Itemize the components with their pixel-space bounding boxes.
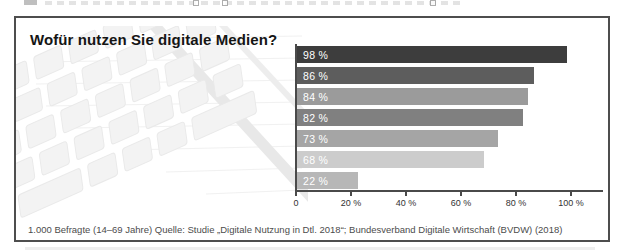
bar-value-label: 86 % bbox=[297, 70, 328, 82]
cropped-page-text-strip bbox=[0, 0, 620, 8]
bar-group: 98 %86 %84 %82 %73 %68 %22 % bbox=[297, 46, 567, 193]
source-caption: 1.000 Befragte (14–69 Jahre) Quelle: Stu… bbox=[28, 224, 600, 235]
cropped-checkbox-remnant bbox=[222, 0, 228, 6]
bar-82pct: 82 % bbox=[297, 109, 523, 126]
bar-value-label: 68 % bbox=[297, 154, 328, 166]
cropped-text-remnant bbox=[24, 0, 37, 5]
x-tick-mark bbox=[405, 192, 407, 196]
bar-value-label: 84 % bbox=[297, 91, 328, 103]
x-tick-mark bbox=[515, 192, 517, 196]
bar-chart: 98 %86 %84 %82 %73 %68 %22 % 020 %40 %60… bbox=[295, 44, 610, 230]
x-tick-label: 40 % bbox=[396, 198, 417, 208]
bar-22pct: 22 % bbox=[297, 172, 358, 189]
x-tick-label: 20 % bbox=[341, 198, 362, 208]
keyboard-photo-decoration bbox=[16, 26, 308, 224]
infographic-frame: Wofür nutzen Sie digitale Medien? 98 %86… bbox=[14, 16, 610, 242]
bar-68pct: 68 % bbox=[297, 151, 484, 168]
bar-value-label: 82 % bbox=[297, 112, 328, 124]
x-tick-mark bbox=[460, 192, 462, 196]
x-tick-mark bbox=[570, 192, 572, 196]
chart-title: Wofür nutzen Sie digitale Medien? bbox=[30, 31, 277, 48]
x-tick-mark bbox=[350, 192, 352, 196]
x-tick-mark bbox=[295, 192, 297, 196]
bar-value-label: 73 % bbox=[297, 133, 328, 145]
page: Wofür nutzen Sie digitale Medien? 98 %86… bbox=[0, 0, 620, 250]
cropped-checkbox-remnant bbox=[430, 0, 436, 6]
cropped-checkbox-remnant bbox=[193, 0, 199, 6]
bar-value-label: 98 % bbox=[297, 49, 328, 61]
x-axis-line bbox=[295, 190, 603, 192]
x-tick-label: 100 % bbox=[558, 198, 584, 208]
bar-98pct: 98 % bbox=[297, 46, 567, 63]
x-tick-label: 60 % bbox=[451, 198, 472, 208]
cropped-text-remnant bbox=[45, 1, 465, 5]
x-tick-label: 80 % bbox=[506, 198, 527, 208]
bar-84pct: 84 % bbox=[297, 88, 528, 105]
x-tick-label: 0 bbox=[293, 198, 298, 208]
bar-73pct: 73 % bbox=[297, 130, 498, 147]
bar-value-label: 22 % bbox=[297, 175, 328, 187]
bar-86pct: 86 % bbox=[297, 67, 534, 84]
